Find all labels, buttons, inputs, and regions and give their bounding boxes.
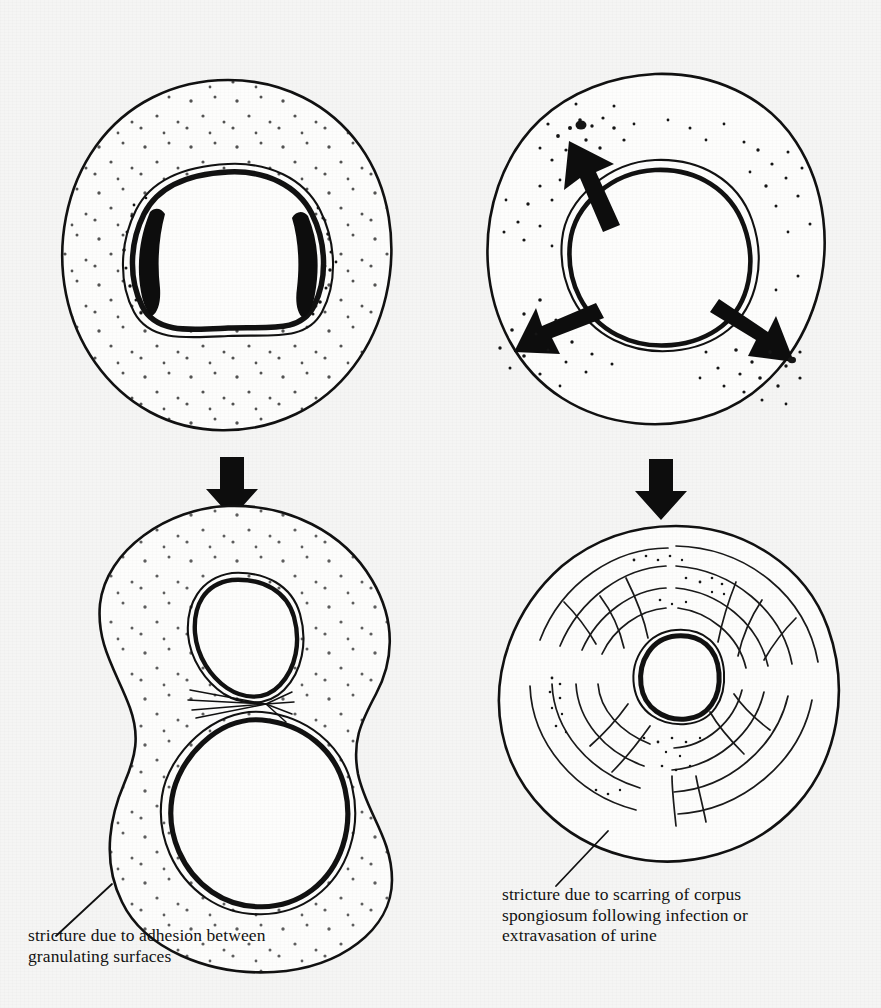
panel-bottom-right [499,526,839,861]
figure-page: stricture due to adhesion between granul… [0,0,881,1008]
caption-adhesion-stricture: stricture due to adhesion between granul… [28,925,388,966]
lower-lumen-bl [171,720,348,907]
constricted-lumen-br [641,636,720,719]
caption-scarring-stricture: stricture due to scarring of corpus spon… [502,884,852,946]
urethral-lumen-tl [132,172,323,330]
panel-bottom-left [90,500,410,980]
urethral-stricture-diagram [0,0,881,1008]
down-arrow-right [635,459,687,520]
panel-top-left [50,70,410,450]
panel-top-right [487,74,824,424]
